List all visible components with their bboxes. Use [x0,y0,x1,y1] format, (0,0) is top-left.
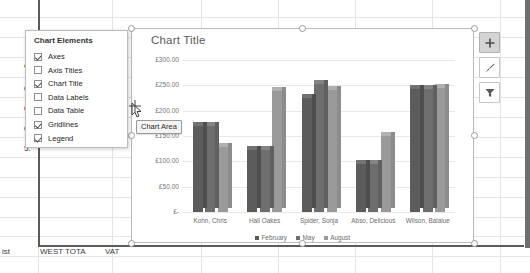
checkbox[interactable] [34,134,42,142]
chart-object[interactable]: Chart Title £300.00£250.00£200.00£150.00… [131,28,474,243]
sheet-frame-right [525,0,530,248]
chart-bar[interactable] [368,164,378,212]
bar-top [368,160,378,164]
chart-bar[interactable] [381,136,391,212]
chart-bar[interactable] [272,91,282,212]
chart-element-option-legend[interactable]: Legend [34,132,73,145]
bar-top [356,160,366,164]
resize-handle[interactable] [128,25,135,32]
funnel-icon [484,87,495,98]
flyout-title: Chart Elements [34,36,93,45]
bar-top [381,132,391,136]
option-label: Legend [48,134,73,143]
bar-side [257,146,261,208]
chart-bar[interactable] [260,150,270,212]
option-label: Axes [48,52,65,61]
chart-elements-button[interactable] [479,32,500,53]
chart-bar[interactable] [314,84,324,212]
chart-bar[interactable] [302,98,312,212]
brush-icon [484,62,496,74]
chart-element-option-data-table[interactable]: Data Table [34,104,84,117]
y-axis-tick-label: £300.00 [131,56,179,63]
bar-face [356,164,366,212]
resize-handle[interactable] [299,240,306,247]
chart-area-tooltip: Chart Area [136,120,182,134]
checkbox[interactable] [34,53,42,61]
bar-face [193,126,203,212]
chart-element-option-gridlines[interactable]: Gridlines [34,118,78,131]
chart-element-option-axis-titles[interactable]: Axis Titles [34,64,82,77]
bar-face [272,91,282,212]
chart-bar[interactable] [327,90,337,212]
spreadsheet-cell[interactable]: VAT [105,247,119,256]
bar-face [368,164,378,212]
chart-bar[interactable] [247,150,257,212]
bar-face [205,126,215,212]
checkbox[interactable] [34,107,42,115]
chart-bar[interactable] [410,89,420,212]
checkbox[interactable] [34,80,42,88]
checkbox[interactable] [34,121,42,129]
resize-handle[interactable] [471,25,478,32]
chart-title[interactable]: Chart Title [151,34,451,46]
resize-handle[interactable] [299,25,306,32]
plot-area[interactable] [183,60,455,212]
bar-face [314,84,324,212]
bar-side [337,86,341,208]
gridline [183,60,455,61]
chart-bar[interactable] [423,89,433,212]
legend-item[interactable]: February [255,234,287,241]
y-axis-tick-label: £50.00 [131,183,179,190]
plus-icon [484,37,495,48]
bar-top [205,122,215,126]
legend-label: February [261,234,287,241]
chart-element-option-chart-title[interactable]: Chart Title [34,77,83,90]
chart-styles-button[interactable] [479,57,500,78]
option-label: Chart Title [48,79,83,88]
chart-bar[interactable] [356,164,366,212]
chart-element-option-axes[interactable]: Axes [34,50,65,63]
bar-side [228,143,232,208]
bar-side [215,122,219,208]
option-label: Data Table [48,106,84,115]
checkbox[interactable] [34,66,42,74]
bar-top [260,146,270,150]
chart-side-buttons[interactable] [479,32,503,107]
legend-swatch [324,236,328,240]
bar-face [435,88,445,212]
bar-side [270,146,274,208]
bar-face [260,150,270,212]
y-axis-tick-label: £250.00 [131,81,179,88]
option-label: Data Labels [48,93,89,102]
option-label: Axis Titles [48,66,82,75]
checkbox[interactable] [34,93,42,101]
bar-side [420,85,424,208]
chart-elements-flyout[interactable]: Chart Elements AxesAxis TitlesChart Titl… [25,30,128,148]
bar-side [391,132,395,208]
bar-side [445,84,449,208]
legend-swatch [296,236,300,240]
bar-top [218,143,228,147]
option-label: Gridlines [48,120,78,129]
spreadsheet-cell[interactable]: WEST TOTA [40,247,86,256]
bar-side [433,85,437,208]
chart-bar[interactable] [435,88,445,212]
resize-handle[interactable] [471,240,478,247]
resize-handle[interactable] [128,132,135,139]
bar-face [218,147,228,212]
chart-bar[interactable] [218,147,228,212]
legend-item[interactable]: August [324,234,350,241]
chart-bar[interactable] [205,126,215,212]
legend-swatch [255,236,259,240]
y-axis-tick-label: £100.00 [131,157,179,164]
resize-handle[interactable] [128,240,135,247]
spreadsheet-cell[interactable]: ist [2,247,10,256]
bar-side [378,160,382,208]
chart-element-option-data-labels[interactable]: Data Labels [34,91,89,104]
bar-face [327,90,337,212]
chart-filters-button[interactable] [479,82,500,103]
resize-handle[interactable] [471,132,478,139]
legend-item[interactable]: May [296,234,315,241]
bar-top [193,122,203,126]
chart-bar[interactable] [193,126,203,212]
